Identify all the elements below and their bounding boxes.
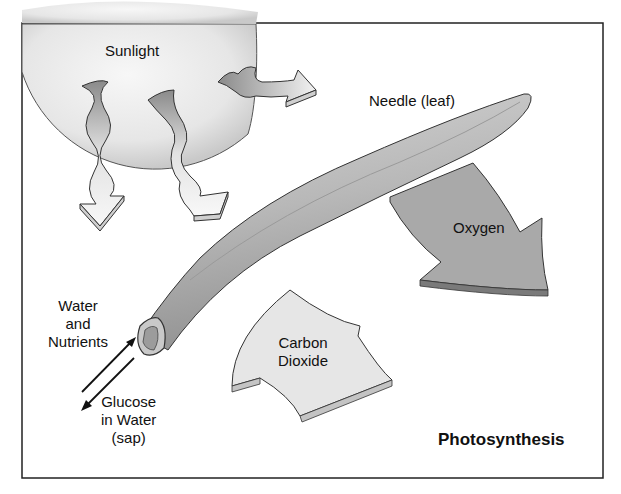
sun-icon	[22, 1, 258, 169]
glucose-line-3: (sap)	[101, 429, 156, 447]
photosynthesis-diagram: Sunlight Needle (leaf) Oxygen Carbon Dio…	[0, 0, 621, 494]
diagram-title: Photosynthesis	[438, 430, 565, 450]
diagram-canvas	[0, 0, 621, 494]
sunlight-label: Sunlight	[105, 42, 159, 60]
carbon-dioxide-label: Carbon Dioxide	[278, 334, 328, 370]
glucose-line-1: Glucose	[101, 393, 156, 411]
carbon-dioxide-line-1: Carbon	[278, 334, 328, 352]
water-nutrients-label: Water and Nutrients	[48, 297, 108, 351]
needle-label: Needle (leaf)	[369, 92, 455, 110]
carbon-dioxide-line-2: Dioxide	[278, 352, 328, 370]
glucose-line-2: in Water	[101, 411, 156, 429]
water-line-3: Nutrients	[48, 333, 108, 351]
water-line-1: Water	[48, 297, 108, 315]
water-line-2: and	[48, 315, 108, 333]
glucose-label: Glucose in Water (sap)	[101, 393, 156, 447]
oxygen-label: Oxygen	[453, 219, 505, 237]
